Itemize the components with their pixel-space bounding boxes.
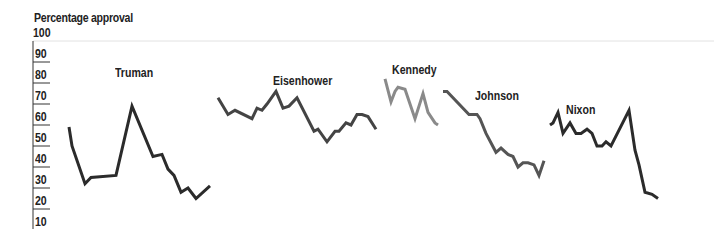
y-tick-label-80: 80 — [35, 68, 47, 82]
y-tick-label-70: 70 — [35, 89, 47, 103]
series-label-johnson: Johnson — [475, 89, 519, 103]
y-tick-label-30: 30 — [35, 173, 47, 187]
series-label-nixon: Nixon — [566, 103, 595, 117]
series-line-kennedy — [385, 79, 438, 125]
y-tick-label-90: 90 — [35, 47, 47, 61]
series-label-kennedy: Kennedy — [392, 63, 437, 77]
series-line-johnson — [443, 91, 544, 175]
y-tick-label-100: 100 — [33, 26, 51, 40]
series-line-truman — [69, 106, 210, 198]
y-tick-label-20: 20 — [35, 194, 47, 208]
y-axis-label: Percentage approval — [34, 11, 133, 25]
y-tick-label-40: 40 — [35, 152, 47, 166]
series-label-truman: Truman — [115, 66, 153, 80]
approval-chart — [0, 0, 714, 229]
series-line-nixon — [550, 110, 658, 198]
series-lines — [69, 79, 658, 199]
y-tick-label-50: 50 — [35, 131, 47, 145]
y-tick-label-60: 60 — [35, 110, 47, 124]
series-line-eisenhower — [218, 91, 376, 141]
y-tick-label-10: 10 — [35, 215, 47, 229]
series-label-eisenhower: Eisenhower — [273, 74, 332, 88]
